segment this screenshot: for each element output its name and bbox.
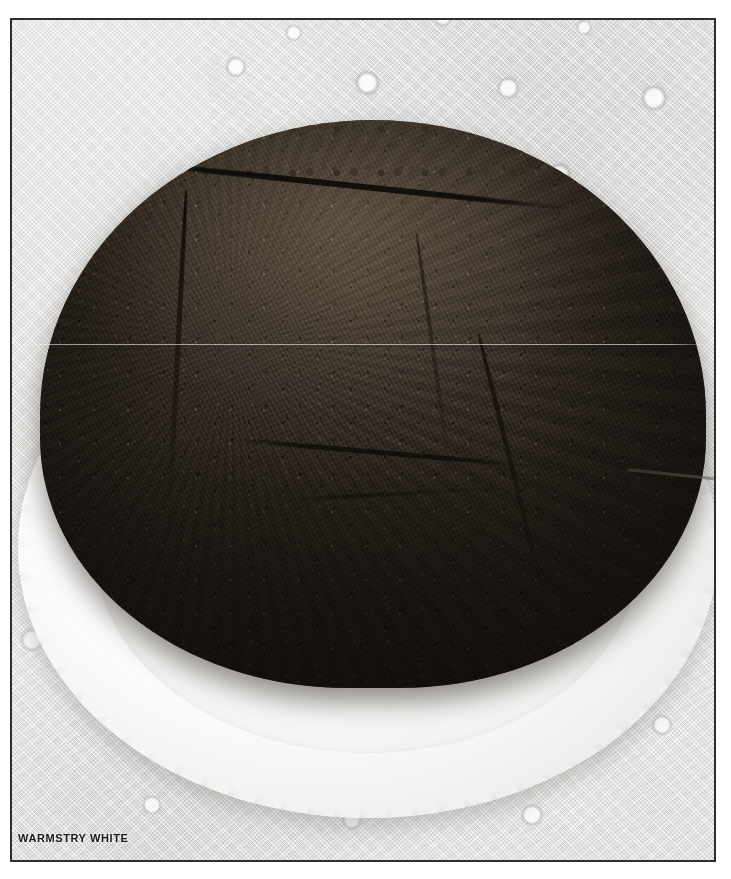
photo-page: WARMSTRY WHITE: [0, 0, 731, 879]
chocolate-cake: [40, 120, 706, 688]
photo-caption: WARMSTRY WHITE: [18, 832, 128, 844]
cake-side-wall-shading: [40, 438, 706, 688]
photograph-frame: WARMSTRY WHITE: [10, 18, 716, 862]
